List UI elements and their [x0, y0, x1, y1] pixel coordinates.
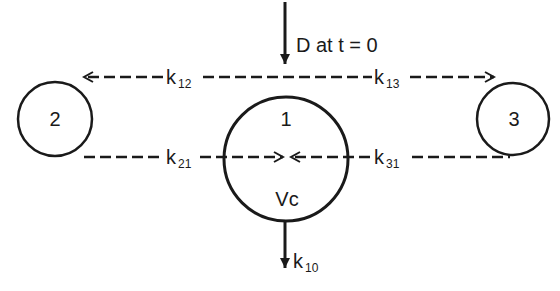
k10-label: k10	[293, 250, 319, 275]
k31-label: k31	[374, 146, 400, 171]
compartment-1: 1 Vc	[224, 97, 348, 221]
compartment-2: 2	[18, 82, 92, 156]
compartment-1-label: 1	[280, 108, 291, 130]
compartment-2-label: 2	[49, 108, 60, 130]
compartment-3: 3	[477, 83, 549, 155]
compartment-3-label: 3	[508, 108, 519, 130]
central-volume-label: Vc	[275, 188, 298, 210]
k21-label: k21	[166, 146, 192, 171]
pk-model-diagram: D at t = 0 k12 k13 k21 k31 2 1 Vc 3 k10	[0, 0, 560, 291]
k12-label: k12	[166, 66, 192, 91]
k13-label: k13	[374, 66, 400, 91]
dose-label: D at t = 0	[296, 34, 378, 56]
